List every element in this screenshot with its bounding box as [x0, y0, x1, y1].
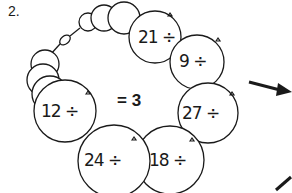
string — [70, 28, 80, 36]
bead-label-27: 27 ÷ — [182, 103, 219, 123]
bead-label-21: 21 ÷ — [138, 27, 175, 47]
bead-label-24: 24 ÷ — [84, 150, 121, 170]
bead-label-12: 12 ÷ — [41, 101, 78, 121]
bead-label-9: 9 ÷ — [179, 51, 206, 71]
partial-arrow — [276, 177, 291, 190]
answer: = 3 — [117, 91, 141, 111]
bead-label-18: 18 ÷ — [149, 150, 186, 170]
arrow-icon — [249, 82, 292, 96]
problem-number: 2. — [8, 3, 20, 19]
